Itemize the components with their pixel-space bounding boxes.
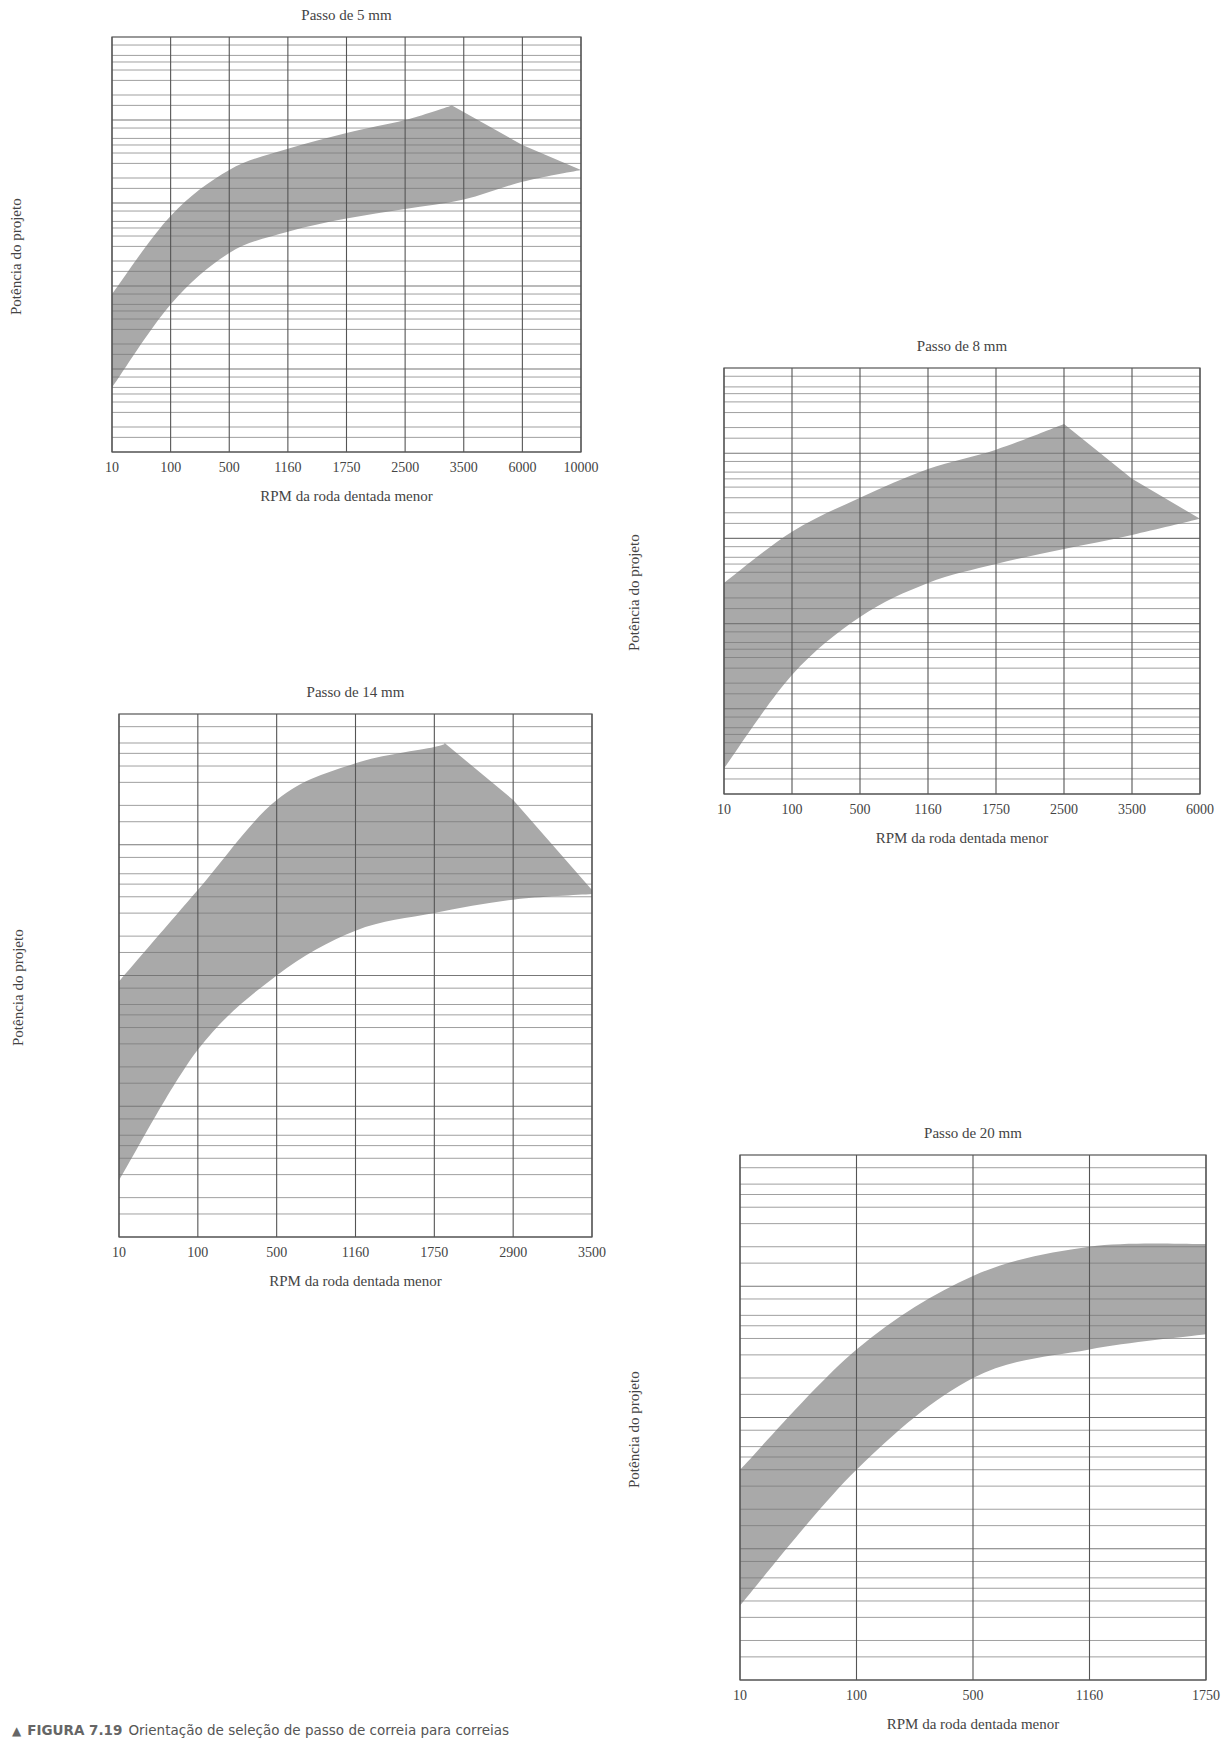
chart-title: Passo de 20 mm [924, 1125, 1022, 1142]
x-tick-label: 10000 [564, 460, 599, 476]
x-tick-label: 1750 [982, 802, 1010, 818]
chart-title: Passo de 8 mm [917, 338, 1007, 355]
x-tick-label: 10 [112, 1245, 126, 1261]
y-axis-label: Potência do projeto [8, 198, 25, 315]
x-tick-label: 100 [846, 1688, 867, 1704]
chart-title: Passo de 5 mm [301, 7, 391, 24]
y-axis-label: Potência do projeto [626, 534, 643, 651]
x-tick-label: 2500 [1050, 802, 1078, 818]
x-tick-label: 6000 [1186, 802, 1214, 818]
x-tick-label: 1160 [914, 802, 941, 818]
x-tick-label: 2500 [391, 460, 419, 476]
figure-label: FIGURA 7.19 [27, 1722, 122, 1738]
y-axis-label: Potência do projeto [626, 1371, 643, 1488]
x-tick-label: 500 [963, 1688, 984, 1704]
plot-area [0, 0, 1227, 1740]
caption-text: Orientação de seleção de passo de correi… [128, 1722, 509, 1738]
x-tick-label: 3500 [578, 1245, 606, 1261]
x-tick-label: 1750 [1192, 1688, 1220, 1704]
x-tick-label: 1160 [1076, 1688, 1103, 1704]
plot-area [0, 0, 1227, 1740]
x-tick-label: 1750 [333, 460, 361, 476]
x-tick-label: 2900 [499, 1245, 527, 1261]
x-tick-label: 3500 [1118, 802, 1146, 818]
power-band [740, 1244, 1206, 1606]
x-tick-label: 100 [160, 460, 181, 476]
chart-title: Passo de 14 mm [307, 684, 405, 701]
x-axis-label: RPM da roda dentada menor [887, 1716, 1059, 1733]
x-tick-label: 10 [733, 1688, 747, 1704]
x-tick-label: 10 [105, 460, 119, 476]
x-tick-label: 6000 [508, 460, 536, 476]
y-axis-label: Potência do projeto [10, 929, 27, 1046]
x-tick-label: 10 [717, 802, 731, 818]
x-axis-label: RPM da roda dentada menor [876, 830, 1048, 847]
x-tick-label: 3500 [450, 460, 478, 476]
power-band [119, 743, 592, 1181]
x-tick-label: 500 [219, 460, 240, 476]
figure-caption: ▲FIGURA 7.19Orientação de seleção de pas… [12, 1722, 509, 1738]
x-tick-label: 1160 [274, 460, 301, 476]
x-tick-label: 1750 [420, 1245, 448, 1261]
x-tick-label: 500 [850, 802, 871, 818]
power-band [724, 424, 1200, 768]
power-band [112, 105, 581, 387]
x-tick-label: 100 [187, 1245, 208, 1261]
plot-area [0, 0, 1227, 1740]
x-tick-label: 100 [782, 802, 803, 818]
x-tick-label: 1160 [342, 1245, 369, 1261]
x-tick-label: 500 [266, 1245, 287, 1261]
triangle-marker-icon: ▲ [12, 1724, 21, 1738]
plot-area [0, 0, 1227, 1740]
x-axis-label: RPM da roda dentada menor [269, 1273, 441, 1290]
x-axis-label: RPM da roda dentada menor [260, 488, 432, 505]
